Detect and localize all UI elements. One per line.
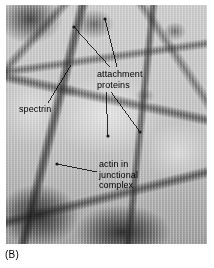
leader-attachment-upper-left [74,27,110,67]
annotation-overlay: attachment proteins spectrin actin in ju… [0,0,214,268]
junction-node-upper-right [103,17,106,20]
junction-node-upper-left [72,25,75,28]
figure-panel: attachment proteins spectrin actin in ju… [0,0,214,268]
leader-spectrin [48,65,71,103]
panel-caption: (B) [5,249,19,261]
leader-attachment-upper-right [105,19,117,67]
junction-node-mid-left [106,134,109,137]
junction-node-mid-right [138,130,141,133]
label-spectrin: spectrin [19,104,51,115]
leader-line-group [0,0,214,268]
leader-actin [57,164,97,172]
label-attachment-proteins: attachment proteins [97,69,143,90]
leader-attachment-lower-right [111,92,140,132]
junction-node-actin [55,162,58,165]
label-actin-in-junctional-complex: actin in junctional complex [99,159,138,191]
leader-attachment-lower-left [106,92,108,136]
